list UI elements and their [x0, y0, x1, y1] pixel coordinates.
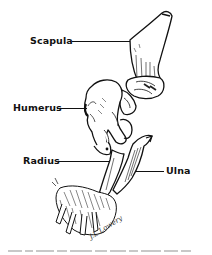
leader-line-scapula: [72, 41, 130, 42]
label-scapula: Scapula: [30, 36, 73, 46]
scapula-bone: [120, 12, 172, 115]
label-ulna: Ulna: [166, 166, 191, 176]
cropped-caption-text: [8, 248, 208, 253]
label-humerus: Humerus: [13, 103, 62, 113]
leader-line-radius: [58, 161, 110, 162]
leader-line-ulna: [136, 171, 164, 172]
label-radius: Radius: [23, 156, 60, 166]
leader-line-humerus: [57, 108, 87, 109]
